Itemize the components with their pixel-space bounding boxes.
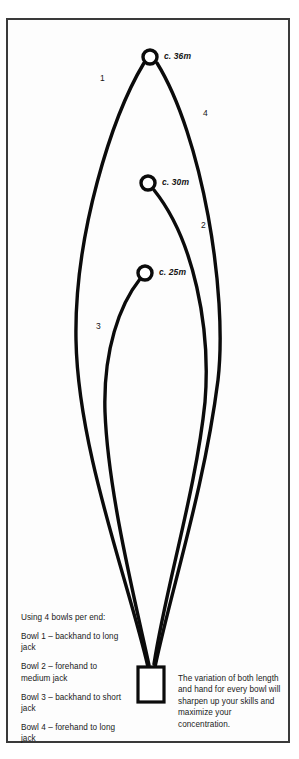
notes-left-line-2: Bowl 2 – forehand to medium jack	[21, 661, 125, 684]
curve-number-3: 3	[96, 321, 101, 331]
delivery-curve-1	[76, 63, 148, 667]
notes-right-block: The variation of both length and hand fo…	[178, 673, 282, 730]
curve-number-2: 2	[201, 220, 206, 230]
curve-number-4: 4	[203, 108, 208, 118]
jack-long-label: c. 36m	[164, 51, 191, 61]
notes-left-block: Using 4 bowls per end: Bowl 1 – backhand…	[21, 612, 125, 745]
delivery-curve-4	[155, 63, 220, 667]
notes-left-line-4: Bowl 4 – forehand to long jack	[21, 722, 125, 745]
jack-medium-label: c. 30m	[162, 177, 189, 187]
notes-left-line-3: Bowl 3 – backhand to short jack	[21, 692, 125, 715]
notes-left-heading: Using 4 bowls per end:	[21, 612, 125, 623]
curve-number-1: 1	[100, 73, 105, 83]
jack-medium-circle	[141, 176, 155, 190]
jack-short-label: c. 25m	[159, 267, 186, 277]
delivery-mat	[138, 667, 164, 702]
jack-long-circle	[143, 50, 157, 64]
notes-right-text: The variation of both length and hand fo…	[178, 673, 282, 730]
delivery-curve-2	[154, 190, 206, 664]
notes-left-line-1: Bowl 1 – backhand to long jack	[21, 631, 125, 654]
jack-short-circle	[138, 266, 152, 280]
delivery-curve-3	[105, 279, 149, 665]
figure-root: c. 36m c. 30m c. 25m 1 2 3 4 Using 4 bow…	[0, 0, 299, 759]
